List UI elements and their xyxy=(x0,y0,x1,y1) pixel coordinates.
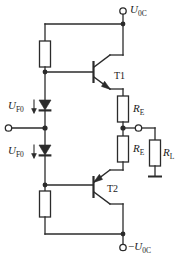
label-resistor-rl: RL xyxy=(163,147,174,161)
supply-negative-subscript: 0C xyxy=(142,246,151,255)
bias-resistor-top[interactable] xyxy=(40,41,51,67)
label-diode-upper: UF0 xyxy=(8,100,24,114)
rl-subscript: L xyxy=(170,152,175,161)
supply-negative-symbol: U xyxy=(134,240,142,252)
supply-positive-symbol: U xyxy=(130,3,138,15)
diode-upper-symbol: U xyxy=(8,99,16,111)
diode-lower-anode-triangle[interactable] xyxy=(39,145,51,155)
label-transistor-t1: T1 xyxy=(114,71,125,81)
label-supply-positive: U0C xyxy=(130,4,147,18)
resistor-re-lower[interactable] xyxy=(118,136,129,162)
bias-resistor-bottom[interactable] xyxy=(40,191,51,217)
t2-emitter-arrow xyxy=(94,174,103,182)
label-transistor-t2: T2 xyxy=(107,184,118,194)
output-terminal[interactable] xyxy=(135,125,141,131)
input-terminal[interactable] xyxy=(5,125,11,131)
diode-upper-subscript: F0 xyxy=(16,105,24,114)
schematic-canvas xyxy=(0,0,175,259)
label-resistor-re-lower: RE xyxy=(133,143,144,157)
diode-lower-label-arrow-head xyxy=(32,154,37,159)
re-upper-symbol: R xyxy=(133,102,140,114)
re-upper-subscript: E xyxy=(140,108,145,117)
supply-positive-terminal[interactable] xyxy=(120,8,126,14)
resistor-rl[interactable] xyxy=(150,140,161,166)
diode-lower-symbol: U xyxy=(8,144,16,156)
wire-t1-collector-slant xyxy=(94,55,110,67)
label-resistor-re-upper: RE xyxy=(133,103,144,117)
re-lower-symbol: R xyxy=(133,142,140,154)
diode-lower-subscript: F0 xyxy=(16,150,24,159)
rl-symbol: R xyxy=(163,146,170,158)
re-lower-subscript: E xyxy=(140,148,145,157)
supply-positive-subscript: 0C xyxy=(138,9,147,18)
label-supply-negative: −U0C xyxy=(128,241,151,255)
diode-upper-anode-triangle[interactable] xyxy=(39,100,51,110)
diode-upper-label-arrow-head xyxy=(32,109,37,114)
supply-negative-terminal[interactable] xyxy=(120,244,126,250)
label-diode-lower: UF0 xyxy=(8,145,24,159)
circuit-schematic-figure: U0C −U0C UF0 UF0 T1 T2 RE RE RL xyxy=(0,0,175,259)
resistor-re-upper[interactable] xyxy=(118,96,129,122)
t1-emitter-arrow xyxy=(102,81,111,89)
